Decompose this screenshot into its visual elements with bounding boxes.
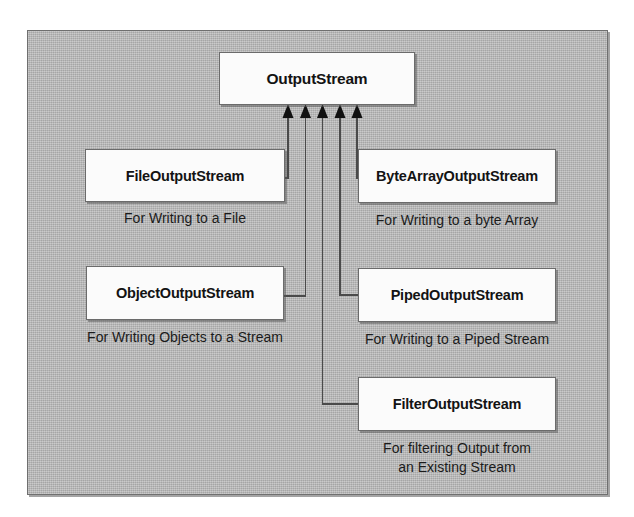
- caption-object-output-stream: For Writing Objects to a Stream: [55, 328, 315, 347]
- class-name-byte-array-output-stream: ByteArrayOutputStream: [376, 168, 538, 184]
- diagram-canvas: OutputStream FileOutputStream For Writin…: [0, 0, 634, 517]
- caption-filter-output-stream-line2: an Existing Stream: [358, 458, 556, 477]
- class-name-piped-output-stream: PipedOutputStream: [391, 287, 524, 303]
- class-name-output-stream: OutputStream: [267, 70, 368, 88]
- class-box-byte-array-output-stream[interactable]: ByteArrayOutputStream: [358, 149, 556, 203]
- caption-piped-output-stream: For Writing to a Piped Stream: [348, 330, 566, 349]
- class-box-file-output-stream[interactable]: FileOutputStream: [85, 149, 285, 202]
- class-box-piped-output-stream[interactable]: PipedOutputStream: [358, 268, 556, 322]
- class-name-file-output-stream: FileOutputStream: [126, 168, 244, 184]
- class-box-object-output-stream[interactable]: ObjectOutputStream: [86, 266, 284, 320]
- caption-byte-array-output-stream: For Writing to a byte Array: [348, 211, 566, 230]
- caption-filter-output-stream: For filtering Output from an Existing St…: [358, 439, 556, 477]
- caption-filter-output-stream-line1: For filtering Output from: [358, 439, 556, 458]
- class-name-object-output-stream: ObjectOutputStream: [116, 285, 254, 301]
- class-box-filter-output-stream[interactable]: FilterOutputStream: [358, 377, 556, 431]
- class-box-output-stream[interactable]: OutputStream: [219, 52, 415, 105]
- class-name-filter-output-stream: FilterOutputStream: [393, 396, 522, 412]
- caption-file-output-stream: For Writing to a File: [85, 209, 285, 228]
